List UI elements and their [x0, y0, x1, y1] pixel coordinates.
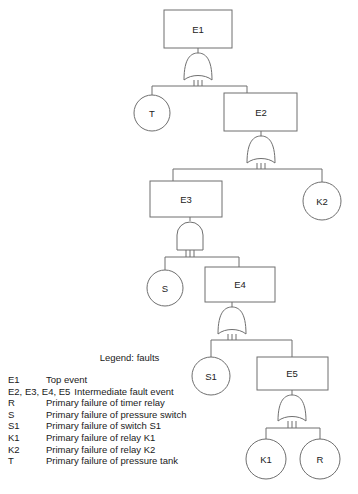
node-e2[interactable]: E2 — [224, 93, 297, 131]
node-label-t: T — [149, 108, 155, 119]
legend-key: S1 — [8, 420, 46, 432]
legend-description: Primary failure of pressure switch — [46, 409, 186, 421]
legend-key: K1 — [8, 432, 46, 444]
legend-description: Primary failure of switch S1 — [46, 420, 161, 432]
legend-item: K1 Primary failure of relay K1 — [8, 432, 223, 444]
legend-item: S Primary failure of pressure switch — [8, 409, 223, 421]
legend-item: K2 Primary failure of relay K2 — [8, 444, 223, 456]
legend-key: E1 — [8, 374, 46, 386]
legend-description: Primary failure of timer relay — [46, 397, 165, 409]
legend-key: R — [8, 397, 46, 409]
node-t[interactable]: T — [134, 95, 170, 131]
wire-gate2-bus — [173, 163, 322, 182]
node-label-e1: E1 — [192, 24, 204, 35]
legend-rows: E1 Top event E2, E3, E4, E5 Intermediate… — [8, 374, 223, 467]
node-label-s: S — [162, 283, 168, 294]
node-k1[interactable]: K1 — [246, 439, 286, 479]
node-label-e4: E4 — [234, 279, 246, 290]
wire-gate4-bus — [211, 334, 292, 357]
legend-title: Legend: faults — [8, 352, 223, 363]
node-e3[interactable]: E3 — [150, 181, 222, 217]
node-label-r: R — [317, 454, 324, 465]
legend-item: E1 Top event — [8, 374, 223, 386]
node-label-e3: E3 — [180, 194, 192, 205]
node-label-k1: K1 — [260, 454, 272, 465]
legend-description: Primary failure of relay K1 — [46, 432, 155, 444]
node-e5[interactable]: E5 — [257, 357, 328, 390]
node-s[interactable]: S — [147, 270, 183, 306]
node-k2[interactable]: K2 — [303, 182, 341, 220]
legend-key: E2, E3, E4, E5 — [8, 386, 74, 398]
legend-item: S1 Primary failure of switch S1 — [8, 420, 223, 432]
legend: Legend: faults E1 Top event E2, E3, E4, … — [8, 352, 223, 467]
node-label-e5: E5 — [286, 368, 298, 379]
legend-description: Primary failure of pressure tank — [46, 455, 178, 467]
node-r[interactable]: R — [300, 439, 340, 479]
legend-key: S — [8, 409, 46, 421]
node-label-e2: E2 — [255, 107, 267, 118]
node-e4[interactable]: E4 — [205, 267, 275, 302]
wire-gate5-bus — [266, 421, 320, 439]
legend-item: T Primary failure of pressure tank — [8, 455, 223, 467]
node-label-k2: K2 — [316, 196, 328, 207]
legend-key: T — [8, 455, 46, 467]
legend-key: K2 — [8, 444, 46, 456]
legend-item: R Primary failure of timer relay — [8, 397, 223, 409]
legend-item: E2, E3, E4, E5 Intermediate fault event — [8, 386, 223, 398]
legend-description: Top event — [46, 374, 87, 386]
legend-description: Primary failure of relay K2 — [46, 444, 155, 456]
legend-description: Intermediate fault event — [74, 386, 173, 398]
node-e1[interactable]: E1 — [164, 10, 232, 48]
